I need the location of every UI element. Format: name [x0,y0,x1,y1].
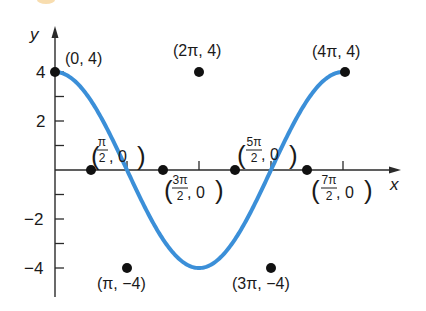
label-7pi2-0: ( 7π 2 , 0 ) [311,173,373,205]
x-axis-label: x [389,175,399,194]
decorative-marker [37,0,55,4]
svg-text:5π: 5π [247,135,262,149]
point-3pi-m4 [266,263,276,273]
svg-text:, 0: , 0 [261,146,279,163]
label-pi2-0: ( π 2 , 0 ) [91,135,146,171]
svg-text:, 0: , 0 [336,184,354,201]
point-2pi-4 [194,67,204,77]
svg-text:, 0: , 0 [187,184,205,201]
label-4pi-4: (4π, 4) [312,43,360,60]
label-3pi2-0: ( 3π 2 , 0 ) [164,173,224,205]
svg-text:(: ( [311,175,320,205]
y-tick-label-2: 2 [36,112,45,131]
y-tick-label-m2: −2 [24,210,43,229]
point-0-4 [50,67,60,77]
y-axis-label: y [29,25,40,44]
svg-text:2: 2 [251,151,258,165]
point-4pi-4 [340,67,350,77]
svg-text:2: 2 [99,151,106,165]
svg-text:3π: 3π [173,173,188,187]
point-pi-m4 [122,263,132,273]
svg-text:π: π [98,135,106,149]
y-tick-label-4: 4 [36,63,45,82]
point-3pi2-0 [158,165,168,175]
svg-text:2: 2 [326,189,333,203]
svg-text:7π: 7π [322,173,337,187]
label-5pi2-0: ( 5π 2 , 0 ) [237,135,298,170]
label-0-4: (0, 4) [65,50,102,67]
x-axis-arrow-icon [389,167,401,174]
cosine-graph: y x 4 2 −2 −4 (0, 4) (2π, 4) (4π, 4) (π,… [0,0,426,311]
y-tick-label-m4: −4 [24,259,43,278]
svg-text:): ) [289,140,298,170]
svg-text:, 0: , 0 [109,148,127,165]
label-2pi-4: (2π, 4) [173,42,221,59]
svg-text:2: 2 [177,189,184,203]
y-axis-arrow-icon [52,26,59,38]
label-3pi-m4: (3π, −4) [232,275,290,292]
label-pi-m4: (π, −4) [97,275,146,292]
svg-text:): ) [215,175,224,205]
svg-text:): ) [137,141,146,171]
point-7pi2-0 [302,165,312,175]
svg-text:): ) [364,175,373,205]
svg-text:(: ( [237,140,246,170]
